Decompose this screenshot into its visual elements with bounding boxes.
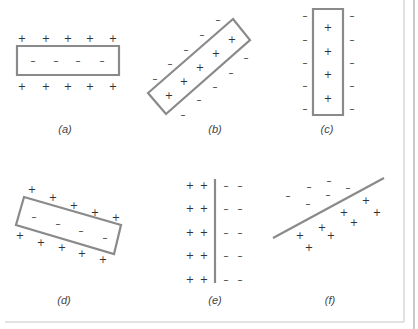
minus-charge-icon: – [197,94,202,105]
minus-charge-icon: – [303,10,308,21]
minus-charge-icon: – [350,10,355,21]
minus-charge-icon: – [238,227,243,238]
plus-charge-icon: + [42,33,50,44]
plus-charge-icon: + [109,33,117,44]
plus-charge-icon: + [109,81,117,92]
plus-charge-icon: + [200,250,208,261]
minus-charge-icon: – [238,203,243,214]
minus-charge-icon: – [350,103,355,114]
plus-charge-icon: + [18,33,26,44]
plus-charge-icon: + [86,81,94,92]
minus-charge-icon: – [103,232,108,243]
panel-label: (d) [57,294,71,306]
minus-charge-icon: – [244,52,249,63]
minus-charge-icon: – [200,29,205,40]
minus-charge-icon: – [224,203,229,214]
plus-charge-icon: + [78,248,86,259]
panel-c: ++++––––––––––(c) [303,9,355,135]
minus-charge-icon: – [303,57,308,68]
minus-charge-icon: – [238,274,243,285]
plus-charge-icon: + [305,242,313,253]
minus-charge-icon: – [100,55,105,66]
minus-charge-icon: – [346,182,351,193]
minus-charge-icon: – [224,227,229,238]
panel-label: (b) [208,123,222,135]
panel-b: +++++––––––––––(b) [148,14,250,136]
minus-charge-icon: – [303,103,308,114]
plus-charge-icon: + [318,222,326,233]
panel-e: ++++++++++––––––––––(e) [186,179,243,306]
plus-charge-icon: + [200,180,208,191]
plus-charge-icon: + [99,254,107,265]
minus-charge-icon: – [32,211,37,222]
plus-charge-icon: + [58,242,66,253]
plus-charge-icon: + [362,195,370,206]
minus-charge-icon: – [286,190,291,201]
plus-charge-icon: + [340,207,348,218]
minus-charge-icon: – [224,274,229,285]
panel-f: ++++++++––––––(f) [273,175,384,307]
plus-charge-icon: + [16,230,24,241]
minus-charge-icon: – [181,109,186,120]
plus-charge-icon: + [186,203,194,214]
plus-charge-icon: + [373,207,381,218]
plus-charge-icon: + [324,69,332,80]
minus-charge-icon: – [168,58,173,69]
minus-charge-icon: – [213,81,218,92]
plus-charge-icon: + [70,200,78,211]
minus-charge-icon: – [153,73,158,84]
panels-group: ++++++++++––––(a)+++++––––––––––(b)++++–… [16,9,384,306]
minus-charge-icon: – [307,181,312,192]
minus-charge-icon: – [76,55,81,66]
minus-charge-icon: – [79,225,84,236]
plus-charge-icon: + [327,230,335,241]
plus-charge-icon: + [350,217,358,228]
plus-charge-icon: + [86,33,94,44]
charge-distribution-diagram: ++++++++++––––(a)+++++––––––––––(b)++++–… [0,0,418,329]
panel-label: (a) [58,123,72,135]
plus-charge-icon: + [28,184,36,195]
minus-charge-icon: – [326,189,331,200]
plus-charge-icon: + [296,230,304,241]
panel-label: (c) [321,123,334,135]
plus-charge-icon: + [18,81,26,92]
plus-charge-icon: + [91,207,99,218]
plus-charge-icon: + [165,90,173,101]
minus-charge-icon: – [238,250,243,261]
plus-charge-icon: + [324,93,332,104]
minus-charge-icon: – [216,14,221,25]
panel-a: ++++++++++––––(a) [17,33,119,136]
minus-charge-icon: – [306,198,311,209]
plus-charge-icon: + [64,81,72,92]
plus-charge-icon: + [324,46,332,57]
plus-charge-icon: + [212,48,220,59]
minus-charge-icon: – [327,175,332,186]
plus-charge-icon: + [186,250,194,261]
minus-charge-icon: – [31,55,36,66]
plus-charge-icon: + [324,22,332,33]
minus-charge-icon: – [54,55,59,66]
minus-charge-icon: – [303,80,308,91]
conductor-rectangle [16,197,121,254]
plus-charge-icon: + [112,212,120,223]
plus-charge-icon: + [42,81,50,92]
plus-charge-icon: + [180,76,188,87]
plus-charge-icon: + [196,62,204,73]
minus-charge-icon: – [238,180,243,191]
minus-charge-icon: – [224,250,229,261]
plus-charge-icon: + [37,237,45,248]
plus-charge-icon: + [186,227,194,238]
plus-charge-icon: + [228,34,236,45]
plus-charge-icon: + [64,33,72,44]
panel-label: (e) [208,294,222,306]
minus-charge-icon: – [350,80,355,91]
minus-charge-icon: – [224,180,229,191]
plus-charge-icon: + [200,274,208,285]
plus-charge-icon: + [200,203,208,214]
minus-charge-icon: – [56,218,61,229]
minus-charge-icon: – [350,57,355,68]
minus-charge-icon: – [184,44,189,55]
panel-label: (f) [325,294,336,306]
minus-charge-icon: – [229,67,234,78]
plus-charge-icon: + [200,227,208,238]
